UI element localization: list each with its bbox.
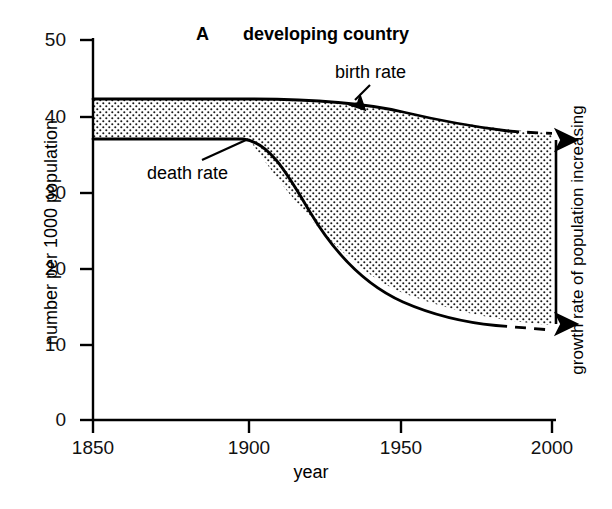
chart-title: Adeveloping country bbox=[196, 24, 409, 45]
y-tick-label-0: 0 bbox=[20, 409, 66, 431]
x-axis-ticks bbox=[93, 420, 552, 433]
y-axis-ticks bbox=[80, 40, 93, 420]
death-rate-curve-dashed bbox=[496, 326, 552, 331]
chart-title-text: developing country bbox=[243, 24, 409, 44]
x-tick-label-2000: 2000 bbox=[517, 437, 587, 459]
x-tick-label-1900: 1900 bbox=[214, 437, 284, 459]
y-axis-title: number per 1000 population bbox=[41, 83, 62, 383]
panel-letter: A bbox=[196, 24, 209, 44]
shaded-gap-area bbox=[93, 99, 552, 325]
x-tick-label-1950: 1950 bbox=[366, 437, 436, 459]
chart-plot-area bbox=[0, 0, 612, 509]
x-tick-label-1850: 1850 bbox=[58, 437, 128, 459]
death-rate-label: death rate bbox=[147, 163, 228, 184]
x-axis-title: year bbox=[251, 462, 371, 483]
birth-rate-label: birth rate bbox=[335, 62, 406, 83]
birth-rate-leader-line bbox=[355, 85, 370, 100]
death-rate-leader-line bbox=[202, 140, 246, 160]
y-tick-label-50: 50 bbox=[20, 29, 66, 51]
growth-rate-annotation: growth rate of population increasing bbox=[568, 85, 588, 395]
figure-chart-developing-country: Adeveloping country 50 40 30 20 10 0 185… bbox=[0, 0, 612, 509]
